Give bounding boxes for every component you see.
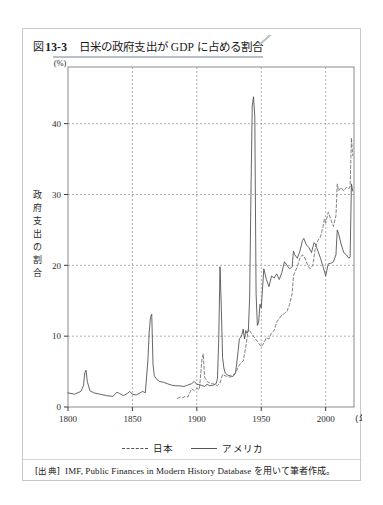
y-axis-title-char: 出: [33, 228, 42, 239]
x-tick-label: 1800: [59, 414, 78, 424]
source-note: [出典]IMF, Public Finances in Modern Histo…: [35, 464, 336, 477]
legend-label: 日本: [153, 441, 174, 455]
figure-title: 日米の政府支出が GDP に占める割合: [79, 38, 263, 54]
line-chart: 01020304018001850190019502000 (%)(年)政府支出…: [23, 59, 362, 449]
figure-panel: 図13-3 日米の政府支出が GDP に占める割合 01020304018001…: [22, 28, 361, 481]
x-tick-label: 1900: [188, 414, 207, 424]
y-tick-label: 40: [52, 119, 62, 129]
y-axis-title-char: 割: [33, 255, 42, 265]
legend-swatch-dashed: [122, 445, 148, 452]
y-axis-title-char: の: [33, 242, 42, 252]
x-tick-label: 1850: [123, 414, 142, 424]
y-axis-title-char: 政: [33, 189, 42, 200]
y-axis-title-char: 支: [33, 215, 42, 226]
x-tick-label: 2000: [317, 414, 336, 424]
source-row: [出典]IMF, Public Finances in Modern Histo…: [23, 459, 362, 480]
chart-legend: 日本アメリカ: [23, 441, 362, 455]
x-tick-label: 1950: [252, 414, 271, 424]
grid-lines: [68, 67, 354, 407]
caption-underline-rule: [53, 56, 263, 58]
source-label: [出典]: [35, 466, 60, 476]
figure-number: 図13-3: [33, 38, 67, 54]
chart-area: 01020304018001850190019502000 (%)(年)政府支出…: [23, 59, 362, 449]
figure-caption: 図13-3 日米の政府支出が GDP に占める割合: [23, 35, 362, 59]
y-tick-label: 10: [52, 331, 62, 341]
legend-swatch-solid: [191, 445, 217, 452]
x-axis-unit-label: (年): [355, 413, 362, 424]
y-tick-label: 20: [52, 261, 62, 271]
figure-number-value: 13-3: [45, 41, 67, 53]
plot-frame: [68, 67, 354, 407]
legend-item: 日本: [122, 441, 174, 455]
y-axis-title-char: 合: [33, 267, 42, 278]
series-line-japan: [178, 138, 353, 399]
data-series: [68, 97, 353, 399]
y-axis-title-char: 府: [33, 203, 42, 213]
source-body: IMF, Public Finances in Modern History D…: [65, 466, 335, 476]
axis-ticks: 01020304018001850190019502000: [52, 119, 335, 424]
y-tick-label: 0: [57, 402, 62, 412]
caption-slash-decoration: [259, 35, 283, 58]
legend-label: アメリカ: [222, 441, 263, 455]
series-line-usa: [68, 97, 353, 397]
y-tick-label: 30: [52, 190, 62, 200]
figure-number-glyph: 図: [33, 41, 44, 53]
y-axis-unit-label: (%): [54, 59, 67, 68]
axis-labels: (%)(年)政府支出の割合: [33, 59, 363, 424]
legend-item: アメリカ: [191, 441, 263, 455]
